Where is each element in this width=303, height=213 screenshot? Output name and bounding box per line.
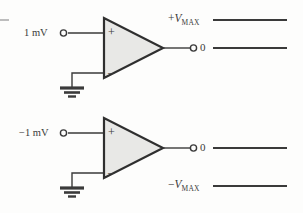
bottom-input-node-circle: [60, 130, 66, 136]
top-ground-icon: [60, 88, 84, 97]
bottom-inverting-terminal-label: –: [108, 166, 114, 178]
top-rail-subscript: MAX: [182, 18, 200, 27]
bottom-ground-icon: [60, 188, 84, 197]
bottom-inverting-ground-lead: [72, 173, 104, 187]
bottom-output-node-circle: [190, 145, 196, 151]
top-rail-symbol: V: [175, 12, 182, 24]
top-positive-rail-label: +VMAX: [168, 13, 200, 27]
top-input-node-circle: [60, 30, 66, 36]
bottom-rail-subscript: MAX: [182, 184, 200, 193]
op-amp-saturation-figure: 1 mV + – 0 +VMAX −1 mV + – 0 −VMAX: [0, 0, 303, 213]
bottom-input-voltage-label: −1 mV: [19, 128, 49, 139]
bottom-noninverting-terminal-label: +: [108, 126, 115, 138]
top-inverting-terminal-label: –: [108, 66, 114, 78]
bottom-output-value-label: 0: [200, 142, 206, 153]
top-noninverting-terminal-label: +: [108, 26, 115, 38]
top-stage-group: [60, 18, 287, 97]
top-output-node-circle: [190, 45, 196, 51]
top-input-voltage-label: 1 mV: [24, 28, 48, 39]
bottom-negative-rail-label: −VMAX: [168, 179, 200, 193]
top-inverting-ground-lead: [72, 73, 104, 87]
top-output-value-label: 0: [200, 42, 206, 53]
bottom-rail-symbol: V: [175, 178, 182, 190]
